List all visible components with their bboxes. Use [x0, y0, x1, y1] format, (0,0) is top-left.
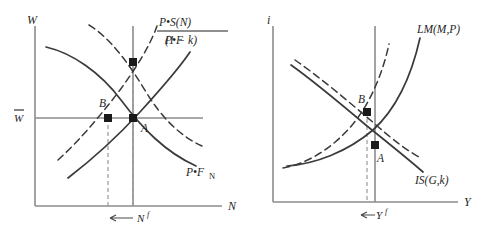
svg-text:P•F: P•F	[185, 166, 205, 178]
is-shifted-curve	[295, 60, 421, 158]
wage-level-label: W	[14, 110, 24, 124]
employment-shift-arrow	[110, 215, 133, 221]
svg-text:W: W	[14, 112, 24, 124]
x-axis-label-labor: N	[227, 199, 237, 213]
svg-text:N: N	[209, 171, 215, 181]
point-a-label-islm: A	[376, 152, 385, 164]
panel-labor-market: W N W N f P•S(N) P•F (1 − k) P•F N A B	[0, 0, 243, 240]
x-axis-label-islm: Y	[464, 195, 472, 209]
svg-text:f: f	[147, 210, 151, 219]
y-axis-label-labor: W	[27, 13, 38, 27]
is-curve-label: IS(G,k)	[414, 174, 449, 187]
economics-figure: W N W N f P•S(N) P•F (1 − k) P•F N A B	[0, 0, 486, 240]
svg-text:N: N	[136, 212, 145, 224]
labor-demand-curve	[46, 47, 196, 166]
output-shift-arrow	[361, 212, 375, 218]
point-a-marker-islm	[372, 142, 379, 149]
point-b-marker-labor	[105, 115, 112, 122]
point-upper-marker-labor	[130, 59, 137, 66]
point-b-marker-islm	[364, 109, 371, 116]
labor-supply-curve-label: P•S(N) P•F (1 − k)	[157, 16, 228, 47]
point-b-label-labor: B	[99, 97, 106, 109]
is-curve	[291, 65, 423, 172]
point-b-label-islm: B	[358, 93, 365, 105]
svg-text:f: f	[385, 207, 389, 216]
lm-curve-label: LM(M,P)	[416, 23, 460, 36]
svg-text:P•S(N): P•S(N)	[158, 16, 191, 29]
point-a-label-labor: A	[140, 122, 149, 134]
point-a-marker-labor	[130, 115, 137, 122]
employment-tick-label: N f	[136, 210, 151, 224]
lm-curve	[287, 38, 420, 166]
denominator-text: (1 − k)	[165, 34, 197, 47]
output-tick-label: Y f	[376, 207, 389, 221]
y-axis-label-islm: i	[267, 13, 270, 27]
svg-text:Y: Y	[376, 209, 384, 221]
panel-is-lm: i Y Y f LM(M,P) IS(G,k) B A	[243, 0, 486, 240]
labor-demand-curve-label: P•F N	[185, 166, 215, 181]
